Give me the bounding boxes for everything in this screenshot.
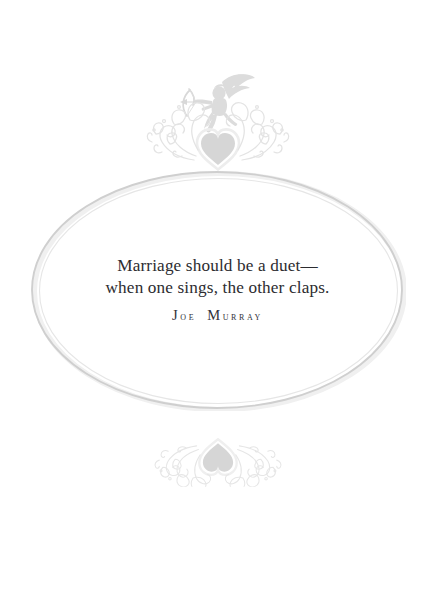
heart-flourish-ornament [129,437,307,487]
bowstring-icon [187,90,196,116]
cupid-heart-flourish-ornament [118,72,318,172]
quote-page: Marriage should be a duet— when one sing… [0,0,435,590]
attribution-last-rest: urray [223,310,263,322]
scrollwork-right [226,103,289,160]
cupid-icon [194,74,255,132]
attribution-first-rest: oe [180,310,196,322]
quote-line-2: when one sings, the other claps. [0,277,435,299]
attribution-last-initial: M [207,307,223,323]
quote-block: Marriage should be a duet— when one sing… [0,255,435,324]
arrow-head-icon [180,99,187,105]
scrollwork-right [225,446,281,487]
quote-line-1: Marriage should be a duet— [0,255,435,277]
scrollwork-left [155,446,211,487]
scrollwork-left [147,103,210,160]
quote-attribution: Joe Murray [0,307,435,324]
heart-icon [199,439,236,475]
heart-icon [197,129,239,169]
bow-icon [183,89,194,116]
